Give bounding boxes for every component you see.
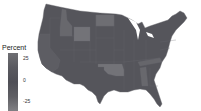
legend-tick-0: 0 [23, 77, 26, 83]
legend-title: Percent [2, 44, 26, 51]
state-north-dakota [96, 15, 114, 26]
state-wyoming [74, 27, 90, 41]
legend-tick-25: 25 [23, 55, 29, 61]
legend-color-bar [8, 53, 18, 111]
map-legend: Percent 25 0 -25 [2, 44, 42, 111]
legend-tick-minus-25: -25 [23, 98, 30, 104]
